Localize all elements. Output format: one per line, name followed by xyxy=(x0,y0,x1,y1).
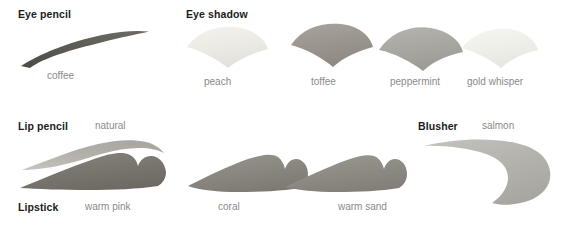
swatch-eye-shadow-gold-whisper xyxy=(459,27,541,74)
shade-label-gold-whisper: gold whisper xyxy=(467,76,523,87)
shade-label-natural: natural xyxy=(95,120,126,131)
shade-label-peppermint: peppermint xyxy=(390,76,440,87)
category-title-blusher: Blusher xyxy=(418,120,458,132)
shade-label-salmon: salmon xyxy=(482,120,514,131)
shade-label-coffee: coffee xyxy=(47,70,74,81)
category-title-lipstick: Lipstick xyxy=(18,201,58,213)
shade-label-warm-pink: warm pink xyxy=(85,201,131,212)
shade-label-coral: coral xyxy=(218,201,240,212)
shade-label-peach: peach xyxy=(204,76,231,87)
cosmetics-shade-chart: Eye pencil coffee Eye shadow xyxy=(0,0,563,229)
category-title-eye-pencil: Eye pencil xyxy=(18,8,71,20)
swatch-lipstick-warm-sand xyxy=(283,152,409,196)
shade-label-toffee: toffee xyxy=(311,76,336,87)
category-title-eye-shadow: Eye shadow xyxy=(186,8,248,20)
swatch-eye-shadow-toffee xyxy=(289,23,375,73)
shade-label-warm-sand: warm sand xyxy=(338,201,387,212)
swatch-blusher-salmon xyxy=(404,138,562,210)
swatch-eye-shadow-peach xyxy=(184,26,270,74)
category-title-lip-pencil: Lip pencil xyxy=(18,120,68,132)
swatch-lipstick-warm-pink xyxy=(18,146,170,194)
swatch-eye-shadow-peppermint xyxy=(377,26,467,76)
swatch-eye-pencil-coffee xyxy=(16,28,156,70)
